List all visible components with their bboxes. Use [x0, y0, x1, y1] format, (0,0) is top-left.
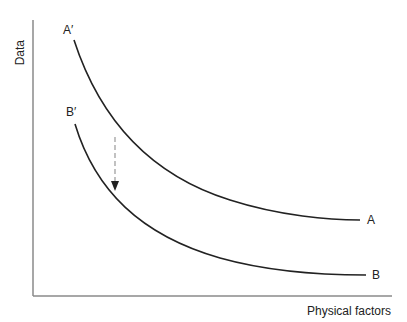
x-axis-label: Physical factors — [307, 304, 391, 318]
curve-a — [74, 40, 360, 220]
arrow-head-icon — [111, 181, 119, 191]
diagram-canvas: Data Physical factors A′ A B′ B — [0, 0, 407, 322]
y-axis-label: Data — [13, 40, 27, 66]
curve-b-start-label: B′ — [66, 105, 77, 119]
curve-a-start-label: A′ — [63, 23, 74, 37]
curve-b-end-label: B — [372, 268, 380, 282]
curve-a-end-label: A — [367, 213, 375, 227]
curve-b — [75, 124, 366, 275]
